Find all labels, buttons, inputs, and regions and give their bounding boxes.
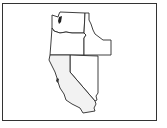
state-idaho[interactable] bbox=[84, 13, 111, 55]
western-states-map bbox=[0, 0, 167, 128]
state-washington[interactable] bbox=[52, 12, 85, 33]
